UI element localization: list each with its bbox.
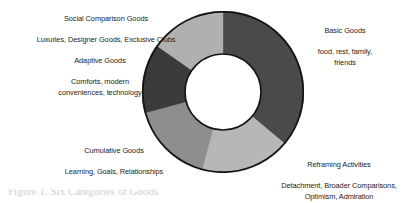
label-basic-heading: Basic Goods (292, 26, 398, 36)
label-reframing-heading: Reframing Activities (264, 160, 414, 170)
label-basic-goods: Basic Goods food, rest, family, friends (292, 16, 398, 78)
figure-caption-text: Figure 1. Six Categories of Goods (8, 189, 158, 197)
label-cumulative-goods: Cumulative Goods Learning, Goals, Relati… (28, 136, 200, 188)
donut-inner-hole (185, 54, 261, 130)
label-social-heading: Social Comparison Goods (8, 14, 204, 24)
label-adaptive-goods: Adaptive Goods Comforts, modern convenie… (22, 46, 178, 108)
label-adaptive-heading: Adaptive Goods (22, 56, 178, 66)
label-adaptive-items: Comforts, modern conveniences, technolog… (22, 77, 178, 98)
label-basic-items: food, rest, family, friends (292, 47, 398, 68)
figure-caption-clipped: Figure 1. Six Categories of Goods (0, 189, 414, 203)
goods-donut-figure: Social Comparison Goods Luxuries, Design… (0, 0, 414, 203)
label-cumulative-heading: Cumulative Goods (28, 146, 200, 156)
label-cumulative-items: Learning, Goals, Relationships (28, 167, 200, 177)
label-social-items: Luxuries, Designer Goods, Exclusive Club… (8, 35, 204, 45)
